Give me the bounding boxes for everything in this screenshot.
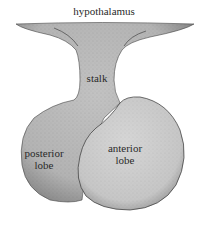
anterior-lobe-label-line1: anterior (108, 142, 143, 154)
posterior-lobe-label-line2: lobe (35, 159, 54, 171)
hypothalamus-label: hypothalamus (73, 5, 135, 17)
pituitary-diagram: hypothalamus stalk posterior lobe anteri… (0, 0, 203, 228)
anterior-lobe-label-line2: lobe (116, 154, 135, 166)
stalk-label: stalk (87, 72, 108, 84)
posterior-lobe-label-line1: posterior (24, 147, 63, 159)
